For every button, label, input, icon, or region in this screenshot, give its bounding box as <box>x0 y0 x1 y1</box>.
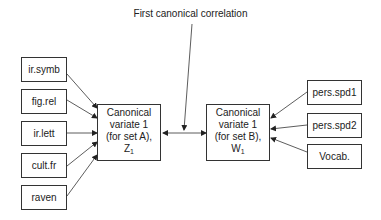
variate-line: variate 1 <box>219 119 257 131</box>
variate-line: (for set A), <box>106 131 152 143</box>
variable-box-vocab: Vocab. <box>307 144 362 169</box>
canonical-variate-a: Canonical variate 1 (for set A), Z1 <box>97 104 161 161</box>
variate-line: variate 1 <box>110 119 148 131</box>
variable-label: fig.rel <box>32 96 56 107</box>
variable-box-ir-symb: ir.symb <box>21 57 67 82</box>
variable-label: raven <box>31 192 56 203</box>
variable-box-pers-spd1: pers.spd1 <box>307 80 362 105</box>
variable-box-raven: raven <box>21 185 67 210</box>
variable-label: ir.lett <box>33 128 54 139</box>
variate-subscript: 1 <box>241 148 245 155</box>
variate-line: (for set B), <box>215 131 262 143</box>
variable-label: pers.spd2 <box>313 120 357 131</box>
variable-box-pers-spd2: pers.spd2 <box>307 113 362 138</box>
variate-symbol: W1 <box>231 143 244 158</box>
variable-label: ir.symb <box>28 64 60 75</box>
diagram-title: First canonical correlation <box>0 8 381 19</box>
variate-symbol-letter: W <box>231 143 240 154</box>
variable-box-fig-rel: fig.rel <box>21 89 67 114</box>
variable-label: pers.spd1 <box>313 87 357 98</box>
variate-subscript: 1 <box>130 148 134 155</box>
variable-label: Vocab. <box>319 151 350 162</box>
variable-label: cult.fr <box>32 160 56 171</box>
canonical-variate-b: Canonical variate 1 (for set B), W1 <box>206 104 270 161</box>
variate-line: Canonical <box>216 107 260 119</box>
variate-line: Canonical <box>107 107 151 119</box>
variate-symbol: Z1 <box>124 143 134 158</box>
variable-box-cult-fr: cult.fr <box>21 153 67 178</box>
variable-box-ir-lett: ir.lett <box>21 121 67 146</box>
canonical-correlation-diagram: First canonical correlation ir.symb fig.… <box>0 0 381 220</box>
